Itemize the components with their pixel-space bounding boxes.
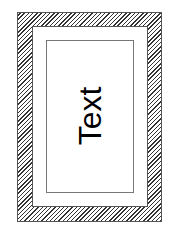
rotated-text-label: Text: [74, 87, 106, 146]
